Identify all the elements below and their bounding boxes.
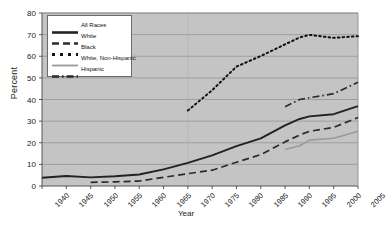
legend-item-label: Black bbox=[81, 44, 96, 51]
legend-item: Hispanic bbox=[52, 64, 128, 75]
legend-item-label: Hispanic bbox=[81, 66, 104, 73]
legend-item: White, Non-Hispanic bbox=[52, 53, 128, 64]
legend-swatch-icon bbox=[52, 44, 78, 51]
legend-item-label: White bbox=[81, 33, 96, 40]
legend-swatch-icon bbox=[52, 55, 78, 62]
legend-item: Black bbox=[52, 42, 128, 53]
legend-item: White bbox=[52, 31, 128, 42]
legend-swatch-icon bbox=[52, 66, 78, 73]
chart-legend: All RacesWhiteBlackWhite, Non-HispanicHi… bbox=[47, 15, 132, 77]
legend-swatch-icon bbox=[52, 22, 78, 29]
legend-swatch-icon bbox=[52, 33, 78, 40]
legend-item-label: White, Non-Hispanic bbox=[81, 55, 136, 62]
legend-item: All Races bbox=[52, 20, 128, 31]
legend-item-label: All Races bbox=[81, 22, 106, 29]
x-axis-tick-label: 2005 bbox=[369, 191, 387, 209]
